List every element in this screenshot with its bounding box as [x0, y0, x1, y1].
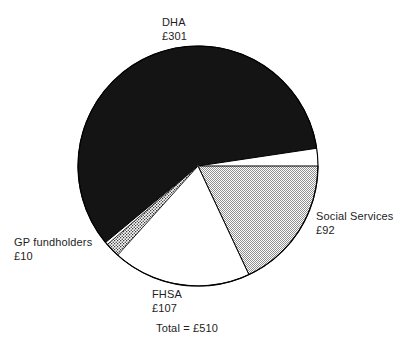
- slice-label-gp-fundholders-name: GP fundholders: [14, 236, 92, 250]
- slice-label-gp-fundholders-value: £10: [14, 250, 92, 264]
- pie-chart-graphic: [0, 0, 406, 343]
- slice-label-dha: DHA £301: [162, 16, 187, 43]
- pie-center-dot: [197, 165, 199, 167]
- slice-label-fhsa-value: £107: [152, 302, 182, 316]
- slice-label-social-services-name: Social Services: [316, 210, 393, 224]
- chart-total-label: Total = £510: [156, 322, 218, 336]
- slice-label-gp-fundholders: GP fundholders £10: [14, 236, 92, 263]
- slice-label-dha-name: DHA: [162, 16, 187, 30]
- slice-label-social-services: Social Services £92: [316, 210, 393, 237]
- slice-label-fhsa: FHSA £107: [152, 288, 182, 315]
- slice-label-fhsa-name: FHSA: [152, 288, 182, 302]
- pie-chart-figure: DHA £301 Social Services £92 FHSA £107 G…: [0, 0, 406, 343]
- slice-label-social-services-value: £92: [316, 224, 393, 238]
- slice-label-dha-value: £301: [162, 30, 187, 44]
